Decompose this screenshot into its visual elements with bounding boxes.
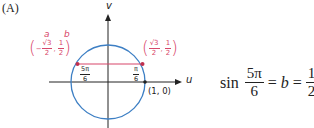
unit-point-label: (1, 0) [148,86,171,96]
left-point-coords: ( − √32 , 12 ) [29,40,71,57]
v-axis-arrow-icon [105,14,111,21]
right-point-coords: ( √32 , 12 ) [142,40,178,57]
v-axis-label: v [106,0,112,11]
angle-label-pi-6: π6 [133,66,139,82]
u-axis-label: u [186,74,192,85]
left-point-marker [76,62,80,66]
unit-point-marker [143,80,147,84]
sine-equation: sin 5π6 = b = 12 [220,66,314,99]
label-a: a [44,29,50,39]
u-axis-arrow-icon [175,79,182,85]
unit-circle-diagram [0,0,314,128]
angle-label-5pi-6: 5π6 [80,66,90,82]
right-point-marker [141,62,145,66]
